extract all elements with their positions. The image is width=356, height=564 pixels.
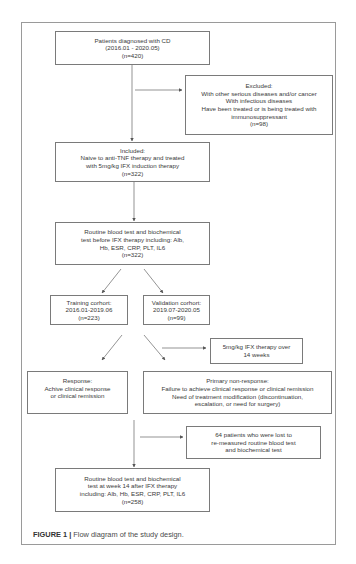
box-included: Included: Naive to anti-TNF therapy and …	[55, 142, 210, 182]
box-diagnosed-line: (2016.01 - 2020.05)	[105, 44, 159, 52]
box-baseline-tests-line: Routine blood test and biochemical	[84, 228, 180, 236]
box-diagnosed: Patients diagnosed with CD (2016.01 - 20…	[55, 31, 210, 65]
box-lost-line: re-measured routine blood test	[211, 439, 295, 447]
box-non-response-line: escalation, or need for surgery)	[195, 400, 281, 408]
box-excluded-line: (n=98)	[250, 120, 268, 128]
box-lost-patients: 64 patients who were lost to re-measured…	[186, 426, 321, 459]
box-week14-tests: Routine blood test and biochemical test …	[55, 468, 210, 512]
figure-caption-text: Flow diagram of the study design.	[71, 530, 184, 539]
box-included-line: Included:	[120, 147, 145, 155]
arrow-tests-to-training	[102, 269, 121, 293]
box-therapy-line: 5mg/kg IFX therapy over	[223, 343, 291, 351]
box-training-cohort: Training corhort: 2016.01-2019.06 (n=223…	[50, 295, 128, 325]
box-lost-line: 64 patients who were lost to	[215, 431, 292, 439]
box-response: Response: Achive clinical response or cl…	[27, 371, 128, 414]
arrow-to-non-response	[144, 335, 165, 360]
box-excluded-line: With other serious diseases and/or cance…	[201, 90, 317, 98]
box-week14-line: Routine blood test and biochemical	[84, 475, 180, 483]
box-baseline-tests-line: test before IFX therapy including: Alb,	[81, 236, 184, 244]
figure-caption-label: FIGURE 1 |	[33, 530, 71, 539]
arrow-to-response	[102, 335, 122, 360]
box-excluded-line: With infectious diseases	[226, 97, 292, 105]
box-ifx-therapy: 5mg/kg IFX therapy over 14 weeks	[210, 338, 303, 364]
box-validation-line: 2019.07-2020.05	[153, 306, 200, 314]
box-therapy-line: 14 weeks	[243, 351, 269, 359]
box-response-line: or clinical remission	[51, 392, 105, 400]
box-response-line: Response:	[63, 377, 93, 385]
box-non-response-line: Need of treatment modification (disconti…	[172, 393, 303, 401]
box-diagnosed-line: Patients diagnosed with CD	[94, 37, 170, 45]
box-training-line: 2016.01-2019.06	[66, 306, 113, 314]
box-excluded-line: Have been treated or is being treated wi…	[202, 105, 317, 113]
box-excluded-line: immunosuppressant	[231, 113, 287, 121]
box-excluded: Excluded: With other serious diseases an…	[185, 75, 333, 135]
box-diagnosed-line: (n=420)	[122, 52, 144, 60]
box-included-line: with 5mg/kg IFX induction therapy	[86, 162, 179, 170]
box-validation-line: Validation corhort:	[152, 299, 201, 307]
box-non-response-line: Primary non-response:	[206, 377, 269, 385]
box-excluded-line: Excluded:	[245, 82, 272, 90]
box-validation-cohort: Validation corhort: 2019.07-2020.05 (n=9…	[143, 295, 210, 325]
box-primary-non-response: Primary non-response: Failure to achieve…	[143, 371, 332, 414]
box-included-line: (n=322)	[122, 170, 144, 178]
box-baseline-tests-line: (n=322)	[122, 251, 144, 259]
box-non-response-line: Failure to achieve clinical response or …	[161, 385, 313, 393]
box-lost-line: and biochemical test	[225, 446, 281, 454]
box-week14-line: including: Alb, Hb, ESR, CRP, PLT, IL6	[80, 490, 185, 498]
box-baseline-tests-line: Hb, ESR, CRP, PLT, IL6	[100, 244, 165, 252]
box-included-line: Naive to anti-TNF therapy and treated	[81, 154, 185, 162]
box-training-line: Training corhort:	[67, 299, 112, 307]
arrow-tests-to-validation	[144, 269, 163, 293]
box-validation-line: (n=99)	[167, 314, 185, 322]
figure-caption: FIGURE 1 | Flow diagram of the study des…	[33, 530, 184, 539]
box-response-line: Achive clinical response	[44, 385, 110, 393]
box-week14-line: test at week 14 after IFX therapy	[88, 482, 177, 490]
box-training-line: (n=223)	[78, 314, 100, 322]
box-baseline-tests: Routine blood test and biochemical test …	[55, 222, 210, 265]
box-week14-line: (n=258)	[122, 498, 144, 506]
